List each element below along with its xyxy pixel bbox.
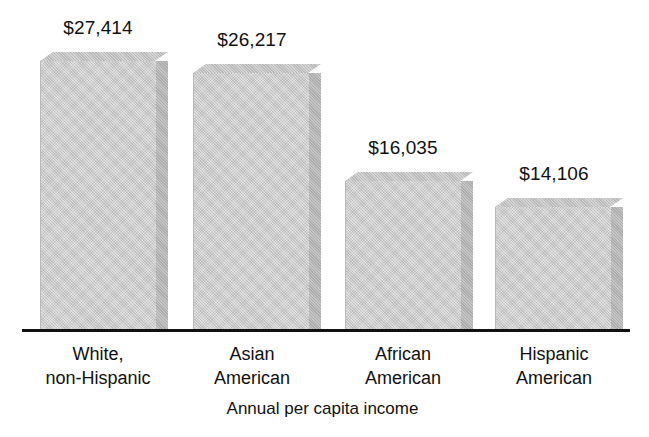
bar-chart: $27,414 $26,217 $16,035 $14,106 (0, 0, 649, 437)
category-label-african-american: African American (327, 342, 479, 390)
bar-top-face (495, 198, 623, 207)
x-axis-line (22, 329, 630, 332)
plot-area: $27,414 $26,217 $16,035 $14,106 (0, 0, 649, 332)
category-label-line: Hispanic (478, 342, 630, 366)
bar-white-non-hispanic (40, 52, 168, 332)
bar-hispanic-american (495, 198, 623, 332)
category-label-line: White, (22, 342, 174, 366)
category-label-asian-american: Asian American (176, 342, 328, 390)
bar-side-face (460, 181, 473, 332)
bar-value-label: $27,414 (26, 17, 170, 39)
bar-african-american (345, 172, 473, 332)
category-label-line: American (478, 366, 630, 390)
bar-value-label: $16,035 (331, 137, 475, 159)
x-axis-title-text: Annual per capita income (227, 398, 419, 420)
category-label-line: non-Hispanic (22, 366, 174, 390)
bar-front-face (40, 61, 156, 332)
bar-side-face (308, 73, 321, 332)
bar-front-face (345, 181, 461, 332)
category-label-line: American (327, 366, 479, 390)
category-label-line: Asian (176, 342, 328, 366)
x-axis-title: Annual per capita income (0, 398, 649, 420)
category-label-hispanic-american: Hispanic American (478, 342, 630, 390)
bar-value-label: $26,217 (180, 29, 324, 51)
bar-front-face (495, 207, 611, 332)
bar-side-face (610, 207, 623, 332)
bar-top-face (345, 172, 473, 181)
bar-top-face (193, 64, 321, 73)
bar-front-face (193, 73, 309, 332)
bar-top-face (40, 52, 168, 61)
category-label-line: American (176, 366, 328, 390)
bar-asian-american (193, 64, 321, 332)
category-label-line: African (327, 342, 479, 366)
category-label-white-non-hispanic: White, non-Hispanic (22, 342, 174, 390)
bar-value-label: $14,106 (482, 163, 626, 185)
bar-side-face (155, 61, 168, 332)
